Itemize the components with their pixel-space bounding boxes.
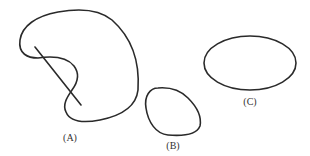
diagram-canvas: (A) (B) (C) [0, 0, 310, 156]
shape-b-outline [146, 88, 201, 136]
label-a: (A) [63, 133, 77, 143]
label-c: (C) [243, 97, 256, 107]
shape-c-outline [204, 36, 296, 90]
shape-a-segment [35, 47, 81, 105]
label-b: (B) [166, 141, 179, 151]
shape-a-outline [20, 10, 139, 121]
shapes-svg [0, 0, 310, 156]
